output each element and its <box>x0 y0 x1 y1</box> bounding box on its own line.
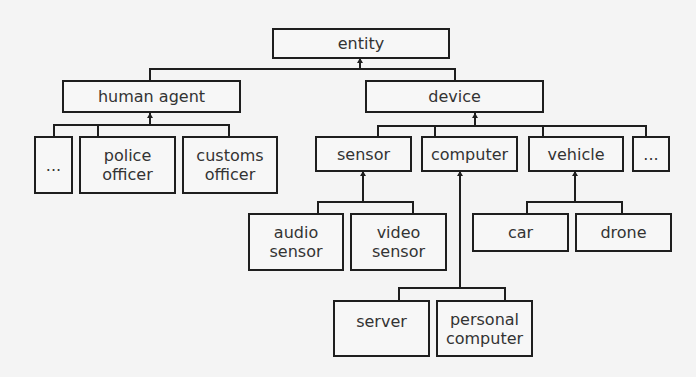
node-label: device <box>428 87 481 106</box>
node-sensor: sensor <box>315 136 412 172</box>
node-personal-computer: personal computer <box>436 300 533 357</box>
node-label: personal computer <box>446 310 523 348</box>
node-audio-sensor: audio sensor <box>248 213 344 271</box>
node-label: ... <box>643 145 658 164</box>
node-human-agent: human agent <box>62 80 241 113</box>
node-label: customs officer <box>196 146 263 184</box>
node-device: device <box>365 80 544 113</box>
node-label: sensor <box>337 145 390 164</box>
node-label: car <box>508 223 533 242</box>
node-label: computer <box>431 145 508 164</box>
node-label: audio sensor <box>269 223 322 261</box>
node-car: car <box>472 213 569 252</box>
node-video-sensor: video sensor <box>350 213 447 271</box>
node-vehicle: vehicle <box>528 136 624 172</box>
node-customs-officer: customs officer <box>182 136 278 194</box>
node-server: server <box>333 300 430 357</box>
node-label: human agent <box>98 87 205 106</box>
node-label: video sensor <box>372 223 425 261</box>
node-label: entity <box>338 34 384 53</box>
node-device-other: ... <box>632 136 670 172</box>
node-police-officer: police officer <box>79 136 176 194</box>
node-drone: drone <box>575 213 672 252</box>
node-label: server <box>356 312 407 331</box>
node-entity: entity <box>272 28 450 59</box>
node-label: drone <box>600 223 646 242</box>
node-human-other: ... <box>34 136 73 194</box>
node-label: police officer <box>102 146 152 184</box>
node-label: ... <box>46 156 61 175</box>
node-computer: computer <box>421 136 518 172</box>
node-label: vehicle <box>548 145 605 164</box>
